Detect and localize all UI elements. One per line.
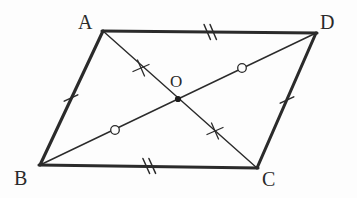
vertex-label-A: A bbox=[78, 12, 92, 32]
center-point-dot bbox=[175, 96, 181, 102]
center-point-label-O: O bbox=[170, 73, 182, 90]
circle-mark-OD bbox=[238, 64, 247, 73]
vertex-label-D: D bbox=[320, 12, 334, 32]
side-AD bbox=[102, 31, 317, 33]
vertex-label-B: B bbox=[14, 168, 27, 188]
side-CB bbox=[39, 165, 258, 168]
circle-mark-BO bbox=[111, 126, 120, 135]
diagram-canvas bbox=[0, 0, 357, 198]
cross-mark-AO bbox=[133, 60, 149, 76]
geometry-figure: A D C B O bbox=[0, 0, 357, 198]
vertex-label-C: C bbox=[262, 169, 275, 189]
